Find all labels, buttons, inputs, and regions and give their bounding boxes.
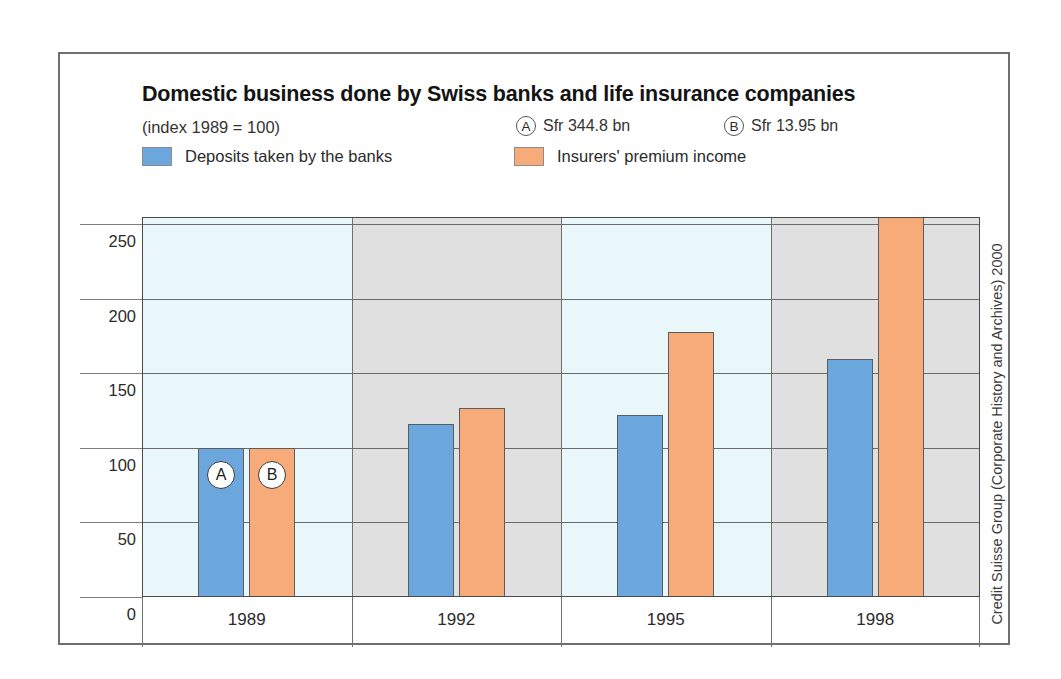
x-axis-label-1992: 1992 [437,610,475,630]
chart-figure: Domestic business done by Swiss banks an… [0,0,1061,679]
plot-inner: AB [142,217,980,597]
plot-border-right [979,217,980,597]
legend-swatch-orange-icon [514,147,544,166]
plot-band-1989 [142,217,352,597]
key-reference-b: B Sfr 13.95 bn [724,116,838,136]
chart-legend: Deposits taken by the banks Insurers' pr… [142,147,1002,173]
page-title: Domestic business done by Swiss banks an… [142,82,1002,107]
key-reference-a: A Sfr 344.8 bn [516,116,630,136]
gridline-200 [142,299,980,300]
y-axis-tick-100: 100 [108,455,136,474]
plot-border-left [142,217,143,597]
circle-marker-b-icon: B [724,116,744,136]
bar-1992-series1 [408,424,454,597]
bar-1995-series2 [668,332,714,597]
gutter-gridline-50 [80,522,142,523]
bar-1998-series1 [827,359,873,597]
plot-band-1998 [771,217,981,597]
bar-1992-series2 [459,408,505,597]
bar-marker-a-icon: A [207,461,235,489]
x-axis-separator [561,597,562,647]
x-axis-label-1998: 1998 [856,610,894,630]
bar-marker-b-icon: B [258,461,286,489]
index-note: (index 1989 = 100) [142,118,280,137]
legend-label-premium-income: Insurers' premium income [557,147,746,166]
gutter-gridline-150 [80,373,142,374]
chart-frame: Domestic business done by Swiss banks an… [58,52,1010,645]
gutter-gridline-250 [80,224,142,225]
x-axis: 1989199219951998 [142,597,980,647]
circle-marker-a-icon: A [516,116,536,136]
legend-swatch-blue-icon [142,147,172,166]
bar-1995-series1 [617,415,663,597]
band-separator [561,217,562,597]
legend-item-deposits: Deposits taken by the banks [142,147,392,166]
x-axis-right-edge [979,597,980,647]
gutter-gridline-0 [80,597,142,598]
gutter-gridline-100 [80,448,142,449]
plot-band-1992 [352,217,562,597]
y-axis: 050100150200250 [80,217,136,597]
x-axis-separator [352,597,353,647]
x-axis-label-1989: 1989 [228,610,266,630]
gridline-250 [142,224,980,225]
y-axis-tick-0: 0 [127,605,136,624]
credit-text: Credit Suisse Group (Corporate History a… [989,243,1005,624]
y-axis-tick-250: 250 [108,232,136,251]
plot-area: 050100150200250 AB [142,217,980,597]
plot-border-top [142,217,980,218]
plot-band-1995 [561,217,771,597]
legend-label-deposits: Deposits taken by the banks [185,147,392,166]
band-separator [771,217,772,597]
y-axis-tick-200: 200 [108,306,136,325]
key-reference-b-label: Sfr 13.95 bn [751,117,838,135]
x-axis-separator [771,597,772,647]
credit-line: Credit Suisse Group (Corporate History a… [984,209,1010,659]
x-axis-label-1995: 1995 [647,610,685,630]
legend-item-premium-income: Insurers' premium income [514,147,746,166]
gutter-gridline-200 [80,299,142,300]
bar-1998-series2 [878,217,924,597]
band-separator [352,217,353,597]
subheader-row: (index 1989 = 100) A Sfr 344.8 bn B Sfr … [142,116,1002,142]
x-axis-left-edge [142,597,143,647]
key-reference-a-label: Sfr 344.8 bn [543,117,630,135]
y-axis-tick-50: 50 [118,530,136,549]
y-axis-tick-150: 150 [108,381,136,400]
chart-header: Domestic business done by Swiss banks an… [142,82,1002,142]
